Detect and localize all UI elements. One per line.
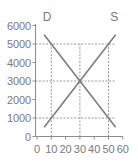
- x-tick-label: 50: [102, 143, 114, 155]
- x-tick-label: 30: [74, 143, 86, 155]
- curve-labels: DS: [43, 10, 119, 24]
- y-tick-label: 2000: [7, 94, 31, 106]
- x-tick-label: 60: [117, 143, 129, 155]
- x-tick-label: 10: [45, 143, 57, 155]
- x-tick-label: 40: [88, 143, 100, 155]
- y-tick-label: 0: [25, 131, 31, 143]
- y-tick-label: 3000: [7, 75, 31, 87]
- supply-demand-chart: 0100020003000400050006000 0102030405060 …: [0, 0, 138, 164]
- curve-label-s: S: [110, 10, 118, 24]
- curve-label-d: D: [43, 10, 52, 24]
- x-axis-ticks: 0102030405060: [34, 137, 129, 156]
- x-tick-label: 20: [59, 143, 71, 155]
- y-tick-label: 1000: [7, 112, 31, 124]
- y-tick-label: 4000: [7, 57, 31, 69]
- y-tick-label: 6000: [7, 20, 31, 32]
- x-tick-label: 0: [34, 143, 40, 155]
- y-tick-label: 5000: [7, 38, 31, 50]
- y-axis-ticks: 0100020003000400050006000: [7, 20, 36, 143]
